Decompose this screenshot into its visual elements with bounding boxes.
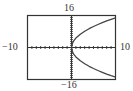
graph-plot-area xyxy=(0,0,133,91)
curve-lower-branch xyxy=(72,48,116,78)
curve-upper-branch xyxy=(72,18,116,48)
